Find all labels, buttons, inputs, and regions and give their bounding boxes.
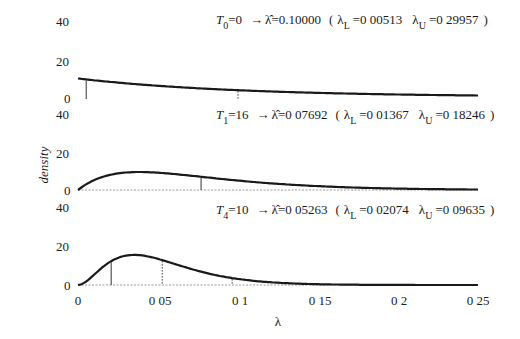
y-tick-40: 40: [56, 200, 69, 215]
svg-text:T4=10→λ̂=0 05263(λL=0 02074λU=: T4=10→λ̂=0 05263(λL=0 02074λU=0 09635): [216, 202, 494, 221]
y-tick-0: 0: [64, 278, 71, 293]
panel-annotation: T1=16→λ̂=0 07692(λL=0 01367λU=0 18246): [216, 107, 494, 126]
y-tick-20: 20: [56, 146, 69, 161]
density-curve: [78, 79, 478, 96]
density-chart: density 40 20 0 T0=0→λ̂=0.10000(λL=0 005…: [0, 0, 520, 339]
y-tick-0: 0: [64, 183, 71, 198]
x-tick-0: 0: [75, 293, 82, 308]
density-curve: [78, 255, 478, 285]
panel-t1: 40 20 0 T1=16→λ̂=0 07692(λL=0 01367λU=0 …: [56, 107, 494, 198]
panel-annotation: T4=10→λ̂=0 05263(λL=0 02074λU=0 09635): [216, 202, 494, 221]
y-tick-20: 20: [56, 54, 69, 69]
panel-t4: 40 20 0 T4=10→λ̂=0 05263(λL=0 02074λU=0 …: [56, 200, 494, 293]
panel-t0: 40 20 0 T0=0→λ̂=0.10000(λL=0 00513λU=0 2…: [56, 12, 488, 106]
y-tick-40: 40: [56, 107, 69, 122]
x-tick-0-2: 0 2: [391, 293, 407, 308]
x-axis-label: λ: [275, 314, 282, 329]
x-tick-0-05: 0 05: [149, 293, 172, 308]
x-tick-0-25: 0 25: [467, 293, 490, 308]
y-tick-40: 40: [56, 14, 69, 29]
x-tick-0-15: 0 15: [309, 293, 332, 308]
y-axis-label: density: [36, 146, 51, 183]
y-tick-0: 0: [64, 91, 71, 106]
density-curve: [78, 172, 478, 190]
y-tick-20: 20: [56, 239, 69, 254]
svg-text:T0=0→λ̂=0.10000(λL=0 00513λU=0: T0=0→λ̂=0.10000(λL=0 00513λU=0 29957): [216, 12, 488, 31]
panel-annotation: T0=0→λ̂=0.10000(λL=0 00513λU=0 29957): [216, 12, 488, 31]
x-axis: 0 0 05 0 1 0 15 0 2 0 25 λ: [75, 293, 490, 329]
svg-text:T1=16→λ̂=0 07692(λL=0 01367λU=: T1=16→λ̂=0 07692(λL=0 01367λU=0 18246): [216, 107, 494, 126]
x-tick-0-1: 0 1: [232, 293, 248, 308]
